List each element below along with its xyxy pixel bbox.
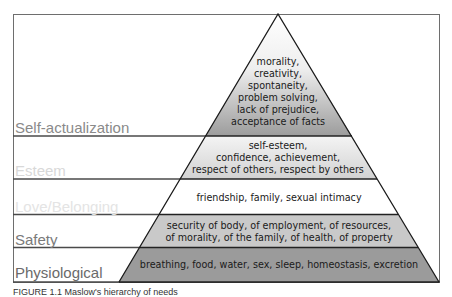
level-label-safety: Safety [15, 231, 58, 248]
band-text-love-belonging: friendship, family, sexual intimacy [196, 192, 361, 203]
figure-caption: FIGURE 1.1 Maslow's hierarchy of needs [13, 287, 178, 297]
level-label-love-belonging: Love/Belonging [15, 198, 118, 215]
level-label-physiological: Physiological [15, 264, 103, 281]
level-label-self-actualization: Self-actualization [15, 119, 129, 136]
svg-text:confidence, achievement,: confidence, achievement, [216, 152, 340, 163]
svg-text:problem solving,: problem solving, [238, 92, 318, 103]
svg-text:friendship, family, sexual int: friendship, family, sexual intimacy [196, 192, 361, 203]
svg-text:lack of prejudice,: lack of prejudice, [237, 104, 319, 115]
svg-text:spontaneity,: spontaneity, [248, 80, 308, 91]
svg-text:of morality, of the family, of: of morality, of the family, of health, o… [165, 232, 392, 243]
svg-text:breathing, food, water, sex, s: breathing, food, water, sex, sleep, home… [140, 259, 418, 270]
svg-text:respect of others, respect by: respect of others, respect by others [192, 164, 364, 175]
svg-text:acceptance of facts: acceptance of facts [231, 116, 325, 127]
band-text-safety: security of body, of employment, of reso… [165, 220, 392, 243]
band-text-physiological: breathing, food, water, sex, sleep, home… [140, 259, 418, 270]
svg-text:morality,: morality, [257, 56, 300, 67]
svg-text:creativity,: creativity, [254, 68, 302, 79]
svg-text:security of body, of employmen: security of body, of employment, of reso… [167, 220, 391, 231]
svg-text:self-esteem,: self-esteem, [249, 140, 308, 151]
level-label-esteem: Esteem [15, 162, 66, 179]
